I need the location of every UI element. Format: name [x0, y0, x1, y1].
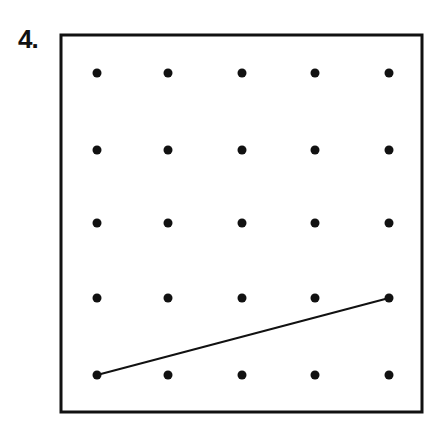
- grid-dot: [385, 69, 394, 78]
- grid-dot: [93, 294, 102, 303]
- grid-dot: [385, 146, 394, 155]
- grid-dot: [164, 219, 173, 228]
- grid-dot: [311, 294, 320, 303]
- dot-grid-board: [0, 0, 439, 423]
- grid-dot: [164, 69, 173, 78]
- grid-dot: [164, 146, 173, 155]
- grid-dot: [385, 219, 394, 228]
- grid-dot: [238, 69, 247, 78]
- grid-dot: [311, 219, 320, 228]
- line-segment: [97, 298, 389, 375]
- grid-dot: [238, 146, 247, 155]
- grid-dot: [385, 371, 394, 380]
- grid-dot: [385, 294, 394, 303]
- grid-dot: [311, 371, 320, 380]
- grid-dot: [164, 371, 173, 380]
- grid-dot: [93, 219, 102, 228]
- grid-dot: [238, 371, 247, 380]
- grid-dot: [93, 146, 102, 155]
- grid-dot: [311, 69, 320, 78]
- grid-dot: [238, 294, 247, 303]
- grid-dot: [311, 146, 320, 155]
- grid-dot: [93, 69, 102, 78]
- grid-dot: [238, 219, 247, 228]
- grid-dot: [164, 294, 173, 303]
- segments-layer: [97, 298, 389, 375]
- dots-layer: [93, 69, 394, 380]
- grid-dot: [93, 371, 102, 380]
